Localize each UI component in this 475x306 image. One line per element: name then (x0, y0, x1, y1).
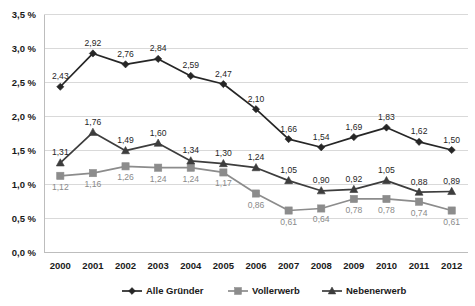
data-label: 1,34 (182, 145, 199, 155)
data-label: 0,92 (345, 174, 362, 184)
x-tick-label: 2012 (441, 260, 462, 271)
data-label: 1,24 (150, 174, 167, 184)
y-tick-label: 2,5 % (12, 77, 37, 88)
data-label: 0,78 (378, 205, 395, 215)
x-tick-label: 2000 (50, 260, 71, 271)
legend-label: Vollerwerb (252, 285, 300, 296)
data-point-marker-square (220, 169, 227, 176)
data-point-marker-square (57, 172, 64, 179)
x-tick-label: 2001 (82, 260, 104, 271)
data-point-marker-square (285, 207, 292, 214)
x-tick-label: 2011 (409, 260, 430, 271)
x-tick-label: 2006 (245, 260, 266, 271)
data-label: 1,12 (52, 182, 69, 192)
x-tick-label: 2003 (148, 260, 169, 271)
data-label: 0,78 (345, 205, 362, 215)
data-point-marker-square (155, 164, 162, 171)
data-label: 1,17 (215, 178, 232, 188)
data-point-marker-square (383, 195, 390, 202)
data-label: 1,60 (150, 128, 167, 138)
data-label: 0,74 (411, 208, 428, 218)
data-label: 1,49 (117, 135, 134, 145)
data-label: 1,24 (182, 174, 199, 184)
data-label: 1,05 (280, 165, 297, 175)
data-label: 0,64 (313, 214, 330, 224)
y-tick-label: 0,0 % (12, 247, 37, 258)
x-tick-label: 2007 (278, 260, 299, 271)
y-tick-label: 2,0 % (12, 111, 37, 122)
data-label: 0,89 (443, 176, 460, 186)
data-label: 1,69 (345, 122, 362, 132)
data-label: 1,54 (313, 132, 330, 142)
x-tick-label: 2005 (213, 260, 235, 271)
data-label: 1,83 (378, 112, 395, 122)
y-tick-label: 1,0 % (12, 179, 37, 190)
data-label: 2,47 (215, 69, 232, 79)
data-point-marker-square (187, 164, 194, 171)
legend-label: Nebenerwerb (346, 285, 406, 296)
data-point-marker-square (318, 205, 325, 212)
data-label: 1,26 (117, 172, 134, 182)
legend-label: Alle Gründer (146, 285, 204, 296)
data-label: 2,10 (248, 94, 265, 104)
chart-container: 0,0 %0,5 %1,0 %1,5 %2,0 %2,5 %3,0 %3,5 %… (0, 0, 475, 306)
data-label: 0,90 (313, 175, 330, 185)
y-tick-label: 3,0 % (12, 43, 37, 54)
data-label: 2,59 (182, 60, 199, 70)
chart-legend: Alle GründerVollerwerbNebenerwerb (122, 285, 406, 296)
data-point-marker-square (350, 195, 357, 202)
data-label: 1,05 (378, 165, 395, 175)
data-label: 1,16 (85, 179, 102, 189)
data-point-marker-square (235, 288, 242, 295)
data-label: 1,76 (85, 117, 102, 127)
data-label: 1,62 (411, 126, 428, 136)
y-tick-label: 3,5 % (12, 9, 37, 20)
data-label: 2,84 (150, 43, 167, 53)
data-label: 1,31 (52, 147, 69, 157)
x-tick-label: 2009 (343, 260, 364, 271)
data-point-marker-square (252, 190, 259, 197)
data-label: 1,50 (443, 135, 460, 145)
x-tick-label: 2002 (115, 260, 136, 271)
data-label: 1,66 (280, 124, 297, 134)
x-tick-label: 2010 (376, 260, 397, 271)
data-label: 0,86 (248, 200, 265, 210)
data-label: 1,24 (248, 152, 265, 162)
data-point-marker-square (448, 207, 455, 214)
data-point-marker-square (89, 170, 96, 177)
y-tick-label: 1,5 % (12, 145, 37, 156)
data-point-marker-square (122, 163, 129, 170)
data-label: 2,43 (52, 71, 69, 81)
x-tick-label: 2008 (311, 260, 332, 271)
data-point-marker-square (415, 198, 422, 205)
data-label: 2,92 (85, 38, 102, 48)
y-tick-label: 0,5 % (12, 213, 37, 224)
data-label: 0,61 (280, 217, 297, 227)
line-chart: 0,0 %0,5 %1,0 %1,5 %2,0 %2,5 %3,0 %3,5 %… (0, 0, 475, 306)
data-label: 2,76 (117, 49, 134, 59)
data-label: 1,30 (215, 148, 232, 158)
data-label: 0,88 (411, 177, 428, 187)
data-label: 0,61 (443, 217, 460, 227)
x-tick-label: 2004 (180, 260, 202, 271)
